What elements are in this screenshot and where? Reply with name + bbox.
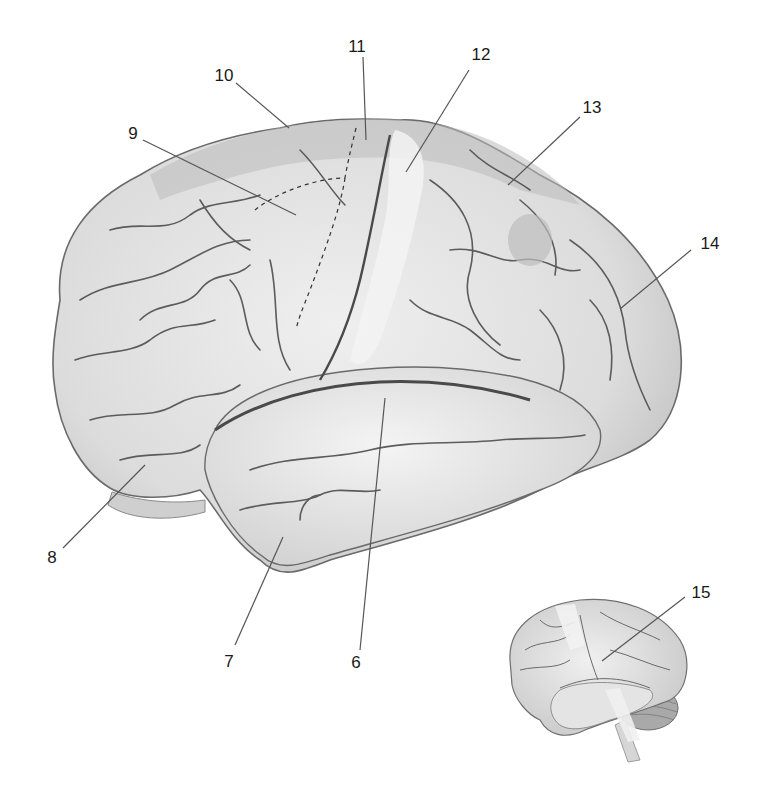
inset-brain xyxy=(510,599,687,762)
callout-label-7: 7 xyxy=(224,653,233,670)
callout-label-8: 8 xyxy=(47,549,56,566)
leader-line-10 xyxy=(236,83,289,128)
callout-label-15: 15 xyxy=(692,584,711,601)
callout-label-14: 14 xyxy=(701,235,720,252)
main-brain xyxy=(53,119,681,572)
brain-illustration xyxy=(0,0,762,799)
callout-label-9: 9 xyxy=(128,125,137,142)
callout-label-6: 6 xyxy=(351,654,360,671)
callout-label-11: 11 xyxy=(348,38,366,55)
callout-label-13: 13 xyxy=(583,99,602,116)
callout-label-10: 10 xyxy=(215,67,234,84)
brain-diagram: 6 7 8 9 10 11 12 13 14 15 xyxy=(0,0,762,799)
callout-label-12: 12 xyxy=(472,46,491,63)
